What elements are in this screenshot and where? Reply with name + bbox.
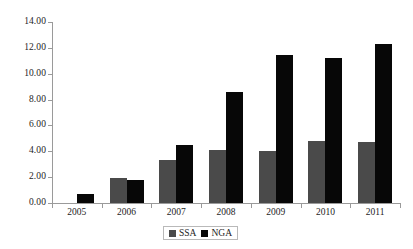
bar-ssa-2007 xyxy=(159,160,176,203)
legend-swatch-icon xyxy=(169,230,176,237)
y-axis-tick-label: 10.00 xyxy=(2,69,46,79)
bar-ssa-2010 xyxy=(308,141,325,203)
y-axis-tick-label: 0.00 xyxy=(2,198,46,208)
bar-ssa-2006 xyxy=(110,178,127,203)
y-axis-tick-label: 4.00 xyxy=(2,146,46,156)
bar-nga-2007 xyxy=(176,145,193,203)
x-axis-tick-mark xyxy=(350,204,351,208)
x-axis-label-2006: 2006 xyxy=(104,207,150,218)
y-axis-tick-label: 8.00 xyxy=(2,95,46,105)
x-axis-tick-mark xyxy=(52,204,53,208)
bar-nga-2009 xyxy=(276,55,293,203)
x-axis-label-2005: 2005 xyxy=(54,207,100,218)
bar-nga-2008 xyxy=(226,92,243,203)
x-axis-label-2010: 2010 xyxy=(302,207,348,218)
bar-nga-2010 xyxy=(325,58,342,203)
bar-ssa-2008 xyxy=(209,150,226,203)
legend-entry-ssa: SSA xyxy=(169,228,196,238)
bar-nga-2005 xyxy=(77,194,94,203)
legend-label: NGA xyxy=(211,228,232,238)
x-axis-label-2009: 2009 xyxy=(253,207,299,218)
x-axis-label-2007: 2007 xyxy=(153,207,199,218)
bar-nga-2011 xyxy=(375,44,392,203)
y-axis-tick-label: 14.00 xyxy=(2,17,46,27)
bar-chart: 0.002.004.006.008.0010.0012.0014.00 2005… xyxy=(0,0,413,249)
plot-area xyxy=(52,22,400,203)
bar-ssa-2009 xyxy=(259,151,276,203)
legend-entry-nga: NGA xyxy=(201,228,232,238)
x-axis-line xyxy=(52,203,401,204)
x-axis-tick-mark xyxy=(400,204,401,208)
y-axis-tick-label: 12.00 xyxy=(2,43,46,53)
legend-label: SSA xyxy=(179,228,196,238)
x-axis-label-2011: 2011 xyxy=(352,207,398,218)
bar-nga-2006 xyxy=(127,180,144,203)
y-axis-tick-label: 6.00 xyxy=(2,120,46,130)
x-axis-tick-mark xyxy=(151,204,152,208)
chart-legend: SSANGA xyxy=(163,226,238,240)
x-axis-label-2008: 2008 xyxy=(203,207,249,218)
x-axis-tick-mark xyxy=(201,204,202,208)
y-axis-tick-label: 2.00 xyxy=(2,172,46,182)
legend-swatch-icon xyxy=(201,230,208,237)
bar-ssa-2011 xyxy=(358,142,375,203)
